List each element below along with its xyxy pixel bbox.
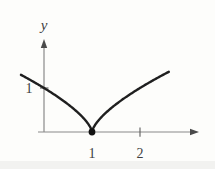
y-tick-label-1: 1 xyxy=(26,81,33,96)
curve xyxy=(21,72,169,132)
plot-canvas: y 12 1 xyxy=(0,0,215,169)
y-axis-arrowhead-icon xyxy=(41,39,47,48)
x-tick-label-2: 2 xyxy=(137,146,144,161)
function-graph-figure: y 12 1 xyxy=(0,0,215,169)
cusp-point-dot xyxy=(89,129,96,136)
x-axis-arrowhead-icon xyxy=(190,129,199,135)
x-tick-label-1: 1 xyxy=(89,146,96,161)
y-axis-label: y xyxy=(39,17,48,33)
scan-artifact-shading xyxy=(0,161,215,169)
